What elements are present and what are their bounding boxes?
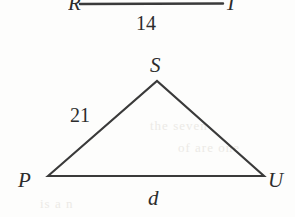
triangle-psu [48, 81, 264, 176]
base-length-label-d: d [148, 188, 159, 209]
vertex-label-u: U [268, 170, 283, 191]
segment-rt [80, 4, 223, 5]
vertex-label-t: T [225, 0, 237, 14]
side-length-label-14: 14 [136, 13, 156, 33]
vertex-label-p: P [18, 170, 31, 191]
geometry-figure: the seven of are one is a n R T 14 S P U… [0, 0, 295, 217]
vertex-label-r: R [68, 0, 81, 14]
vertex-label-s: S [150, 55, 161, 76]
side-length-label-21: 21 [70, 105, 90, 125]
